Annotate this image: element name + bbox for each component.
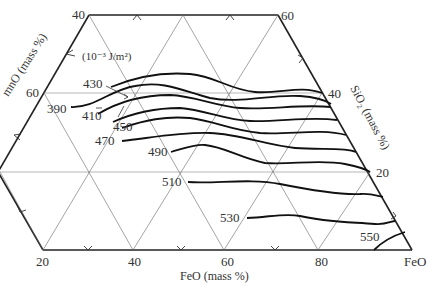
tick-label-feo-60: 60 [221, 254, 234, 269]
contour-450b [122, 117, 346, 135]
contour-label-470: 470 [95, 133, 115, 148]
tick-label-sio2-60: 60 [281, 8, 294, 23]
contour-label-410: 410 [82, 108, 102, 123]
tick-label-feo-80: 80 [315, 254, 328, 269]
axis-title-sio2: SiO₂ (mass %) [347, 83, 393, 152]
tick-label-sio2-40: 40 [328, 86, 341, 101]
tick-label-feo-20: 20 [36, 254, 49, 269]
contour-530 [247, 215, 395, 224]
contour-label-510: 510 [162, 174, 182, 189]
contour-label-430: 430 [83, 76, 103, 91]
tick-label-mno-60: 60 [26, 85, 39, 100]
contour-label-450: 450 [113, 119, 133, 134]
axis-titles: FeO (mass %) mnO (mass %) SiO₂ (mass %) [0, 31, 393, 283]
tick-label-feo-40: 40 [128, 254, 141, 269]
contour-label-530: 530 [220, 210, 240, 225]
contour-label-390: 390 [47, 101, 67, 116]
contour-label-490: 490 [148, 144, 168, 159]
ternary-diagram: 40 60 60 40 20 20 40 60 80 FeO FeO (mass… [0, 0, 427, 289]
corner-label-feo: FeO [404, 254, 426, 269]
axis-title-mno: mnO (mass %) [0, 31, 50, 99]
unit-label: (10⁻³ J/m²) [82, 50, 132, 63]
contour-510 [188, 181, 383, 197]
axis-title-feo: FeO (mass %) [180, 269, 249, 283]
tick-label-mno-40: 40 [72, 7, 85, 22]
contour-label-550: 550 [360, 229, 380, 244]
contour-410 [98, 95, 331, 114]
tick-label-sio2-20: 20 [376, 165, 389, 180]
